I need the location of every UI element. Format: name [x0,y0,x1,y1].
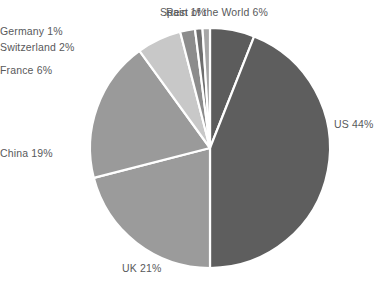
slice-label-germany-text: Germany 1% [0,25,63,37]
slice-label-us-text: US 44% [334,118,373,130]
slice-label-switzerland-text: Switzerland 2% [0,41,74,53]
slice-label-rest-of-world-text: Rest of the World 6% [166,6,268,18]
slice-label-rest-of-world: Rest of the World 6% [166,6,268,18]
slice-label-china-text: China 19% [0,147,53,159]
slice-label-us: US 44% [334,118,373,130]
pie-slices-group: Rest of the World 6%US 44%UK 21%China 19… [90,28,330,268]
slice-label-uk: UK 21% [122,262,161,274]
slice-label-germany: Germany 1% [0,25,151,37]
slice-label-france-text: France 6% [0,64,52,76]
slice-label-france: France 6% [0,64,118,76]
pie-chart: Rest of the World 6%US 44%UK 21%China 19… [0,0,387,294]
slice-label-switzerland: Switzerland 2% [0,41,137,53]
slice-label-uk-text: UK 21% [122,262,161,274]
slice-label-china: China 19% [0,147,78,159]
